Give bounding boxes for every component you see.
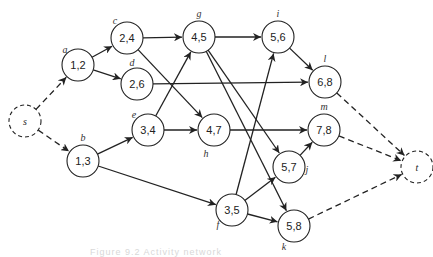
node-label: k bbox=[282, 241, 287, 252]
node-label: l bbox=[324, 53, 327, 64]
node-g: 4,5g bbox=[183, 8, 215, 53]
node-c: 2,4c bbox=[111, 15, 143, 54]
node-t: t bbox=[401, 151, 433, 183]
node-f: 3,5f bbox=[216, 194, 248, 230]
node-value: 5,7 bbox=[281, 161, 296, 173]
node-label: c bbox=[113, 15, 118, 26]
node-value: 3,5 bbox=[224, 204, 239, 216]
nodes-layer: s1,2a1,3b2,4c2,6d3,4e4,5g4,7h5,6i6,8l7,8… bbox=[9, 8, 433, 252]
edge-k-t bbox=[308, 174, 401, 219]
node-value: 2,4 bbox=[119, 32, 134, 44]
node-e: 3,4e bbox=[132, 109, 164, 146]
node-h: 4,7h bbox=[198, 114, 230, 159]
node-label: e bbox=[132, 109, 137, 120]
node-d: 2,6d bbox=[121, 57, 153, 100]
node-s: s bbox=[9, 105, 41, 137]
node-j: 5,7j bbox=[273, 151, 309, 183]
edge-s-b bbox=[38, 130, 69, 151]
node-value: 5,6 bbox=[270, 31, 285, 43]
node-label: b bbox=[81, 132, 86, 143]
edge-i-l bbox=[290, 48, 313, 70]
node-a: 1,2a bbox=[62, 44, 94, 81]
edge-f-k bbox=[248, 214, 278, 222]
node-label: h bbox=[204, 148, 209, 159]
edge-b-e bbox=[97, 137, 132, 154]
node-value: 6,8 bbox=[317, 76, 332, 88]
node-label: a bbox=[63, 44, 68, 55]
node-label: i bbox=[277, 8, 280, 19]
node-value: 4,7 bbox=[206, 124, 221, 136]
node-value: 5,8 bbox=[286, 220, 301, 232]
activity-network-diagram: s1,2a1,3b2,4c2,6d3,4e4,5g4,7h5,6i6,8l7,8… bbox=[0, 0, 433, 257]
node-b: 1,3b bbox=[67, 132, 99, 177]
node-label: d bbox=[130, 57, 136, 68]
node-value: 3,4 bbox=[140, 124, 155, 136]
node-value: 7,8 bbox=[316, 124, 331, 136]
node-value: 1,3 bbox=[75, 155, 90, 167]
node-label: m bbox=[320, 101, 327, 112]
edge-f-j bbox=[245, 177, 276, 200]
node-value: 4,5 bbox=[191, 31, 206, 43]
node-m: 7,8m bbox=[308, 101, 340, 146]
edge-a-c bbox=[92, 46, 112, 57]
node-value: s bbox=[23, 116, 27, 127]
node-label: g bbox=[197, 8, 202, 19]
edge-a-d bbox=[93, 70, 121, 79]
node-value: t bbox=[416, 162, 419, 173]
node-value: 1,2 bbox=[70, 59, 85, 71]
edge-c-g bbox=[143, 37, 182, 38]
edge-b-f bbox=[98, 166, 216, 205]
node-value: 2,6 bbox=[129, 78, 144, 90]
edge-j-m bbox=[300, 142, 312, 155]
edge-m-t bbox=[339, 136, 401, 161]
edge-l-t bbox=[337, 93, 405, 156]
node-l: 6,8l bbox=[309, 53, 341, 98]
node-k: 5,8k bbox=[278, 210, 310, 252]
edge-s-a bbox=[36, 77, 66, 109]
node-i: 5,6i bbox=[262, 8, 294, 53]
figure-caption: Figure 9.2 Activity network bbox=[90, 247, 222, 257]
